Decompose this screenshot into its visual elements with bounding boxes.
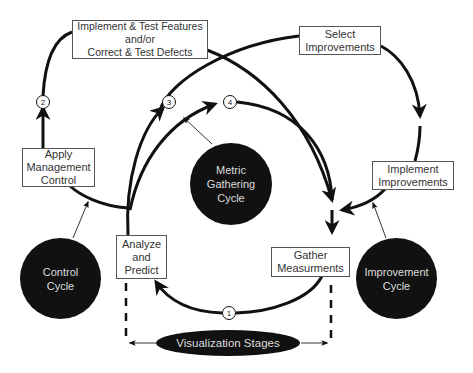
stage-marker-3: 3 <box>162 95 176 109</box>
implement-improvements-line1: Implement <box>373 163 453 176</box>
gather-measurements-line1: Gather <box>272 249 349 262</box>
analyze-predict-line2: and <box>117 251 166 264</box>
select-improvements-line2: Improvements <box>300 41 380 54</box>
gather-measurements-box: Gather Measurments <box>271 247 350 277</box>
improvement-cycle-line2: Cycle <box>383 279 411 293</box>
analyze-predict-line3: Predict <box>117 264 166 277</box>
implement-test-line3: Correct & Test Defects <box>73 46 207 59</box>
select-improvements-box: Select Improvements <box>299 26 381 55</box>
metric-gathering-cycle: Metric Gathering Cycle <box>190 143 272 225</box>
select-improvements-line1: Select <box>300 28 380 41</box>
metric-cycle-line1: Metric <box>216 163 246 177</box>
control-cycle-line1: Control <box>43 265 78 279</box>
control-cycle: Control Cycle <box>20 238 101 319</box>
implement-improvements-box: Implement Improvements <box>372 161 454 190</box>
apply-management-line1: Apply <box>23 148 94 161</box>
implement-improvements-line2: Improvements <box>373 176 453 189</box>
improvement-cycle: Improvement Cycle <box>356 238 437 319</box>
apply-management-line3: Control <box>23 174 94 187</box>
analyze-predict-box: Analyze and Predict <box>116 235 167 279</box>
metric-cycle-line2: Gathering <box>207 177 255 191</box>
apply-management-box: Apply Management Control <box>22 148 95 187</box>
visualization-stages-label: Visualization Stages <box>156 336 300 350</box>
gather-measurements-line2: Measurments <box>272 262 349 275</box>
apply-management-line2: Management <box>23 161 94 174</box>
implement-test-line1: Implement & Test Features <box>73 20 207 33</box>
implement-test-line2: and/or <box>73 33 207 46</box>
improvement-cycle-line1: Improvement <box>364 265 428 279</box>
analyze-predict-line1: Analyze <box>117 238 166 251</box>
stage-marker-2: 2 <box>36 95 50 109</box>
implement-test-box: Implement & Test Features and/or Correct… <box>72 20 208 59</box>
metric-cycle-line3: Cycle <box>217 191 245 205</box>
stage-marker-1: 1 <box>222 306 236 320</box>
stage-marker-4: 4 <box>223 95 237 109</box>
control-cycle-line2: Cycle <box>47 279 75 293</box>
